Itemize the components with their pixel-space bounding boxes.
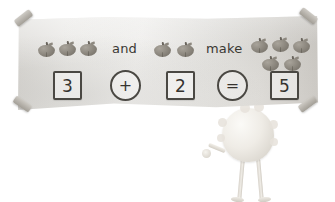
apple-body-icon xyxy=(284,59,301,71)
apple-body-icon xyxy=(293,41,310,53)
apple-body-icon xyxy=(251,41,268,53)
monster-fuzz xyxy=(269,120,278,129)
monster-fuzz xyxy=(217,134,225,142)
number-box-sum: 5 xyxy=(270,71,299,100)
apple-body-icon xyxy=(80,44,97,56)
monster-leg-left xyxy=(237,158,245,202)
apple-icon xyxy=(59,41,76,56)
worksheet-illustration: and make xyxy=(0,0,335,202)
number-box-addend-one: 3 xyxy=(53,71,82,100)
apple-icon xyxy=(80,41,97,56)
word-make: make xyxy=(206,41,243,56)
apple-icon xyxy=(262,56,279,71)
monster-hand-lower-left xyxy=(202,149,211,158)
number-box-addend-two: 2 xyxy=(166,71,195,100)
operator-plus-circle: + xyxy=(110,70,141,101)
paper-banner: and make xyxy=(18,16,318,110)
apple-icon xyxy=(284,56,301,71)
monster-body xyxy=(222,108,274,162)
monster-foot-right xyxy=(258,196,271,202)
apple-icon xyxy=(177,42,194,57)
word-and: and xyxy=(112,41,137,56)
apple-icon xyxy=(38,42,55,57)
monster-foot-left xyxy=(231,196,244,202)
apple-body-icon xyxy=(262,59,279,71)
apple-body-icon xyxy=(272,40,289,52)
apple-body-icon xyxy=(38,45,55,57)
apple-icon xyxy=(293,38,310,53)
apple-icon xyxy=(154,42,171,57)
monster-leg-right xyxy=(256,158,264,202)
apple-body-icon xyxy=(177,45,194,57)
apple-icon xyxy=(272,37,289,52)
monster-fuzz xyxy=(218,118,227,127)
apple-body-icon xyxy=(154,45,171,57)
monster-fuzz xyxy=(270,138,278,146)
apple-body-icon xyxy=(59,44,76,56)
apple-icon xyxy=(251,38,268,53)
picture-sentence-row: and make xyxy=(18,28,318,76)
operator-equals-circle: = xyxy=(217,70,248,101)
